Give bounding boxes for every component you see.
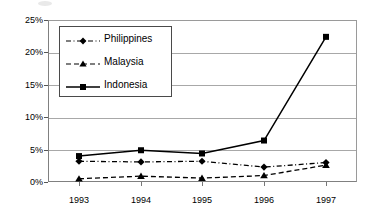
legend-item-philippines: Philippines — [60, 27, 171, 50]
legend-item-malaysia: Malaysia — [60, 50, 171, 73]
y-tick-mark-0 — [44, 182, 48, 183]
x-tick-mark-1997 — [326, 182, 327, 186]
x-tick-mark-1994 — [141, 182, 142, 186]
y-tick-mark-15 — [44, 85, 48, 86]
x-tick-label-1993: 1993 — [55, 196, 103, 205]
x-tick-mark-1995 — [202, 182, 203, 186]
y-tick-mark-10 — [44, 117, 48, 118]
legend: Philippines Malaysia Indonesia — [59, 26, 172, 97]
legend-item-indonesia: Indonesia — [60, 73, 171, 96]
x-tick-label-1995: 1995 — [178, 196, 226, 205]
y-tick-mark-5 — [44, 150, 48, 151]
y-tick-label-15: 15% — [12, 81, 43, 90]
y-tick-label-10: 10% — [12, 113, 43, 122]
y-tick-mark-20 — [44, 52, 48, 53]
gridline-5 — [49, 150, 356, 151]
y-tick-label-20: 20% — [12, 48, 43, 57]
y-tick-label-25: 25% — [12, 16, 43, 25]
y-tick-mark-25 — [44, 20, 48, 21]
legend-swatch-philippines — [65, 33, 101, 45]
legend-label-indonesia: Indonesia — [104, 79, 147, 90]
x-tick-label-1994: 1994 — [117, 196, 165, 205]
x-tick-label-1996: 1996 — [240, 196, 288, 205]
x-tick-mark-1993 — [79, 182, 80, 186]
legend-label-philippines: Philippines — [104, 33, 152, 44]
y-tick-label-0: 0% — [12, 178, 43, 187]
y-tick-label-5: 5% — [12, 146, 43, 155]
x-tick-label-1997: 1997 — [302, 196, 350, 205]
x-tick-mark-1996 — [264, 182, 265, 186]
legend-label-malaysia: Malaysia — [104, 56, 143, 67]
legend-swatch-malaysia — [65, 56, 101, 68]
gridline-10 — [49, 118, 356, 119]
scan-artifact — [38, 1, 52, 6]
line-chart: 25% 20% 15% 10% 5% 0% 1993 1994 1995 199… — [0, 0, 370, 216]
legend-swatch-indonesia — [65, 79, 101, 91]
